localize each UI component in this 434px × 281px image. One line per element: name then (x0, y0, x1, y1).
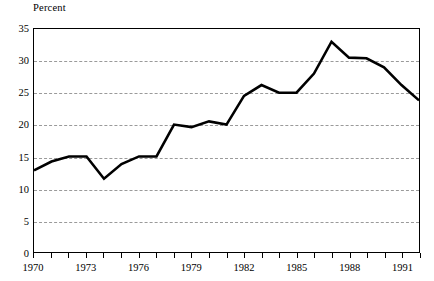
y-tick-label-15: 15 (3, 151, 29, 162)
series-line-percent (34, 29, 419, 252)
x-tick-1991 (402, 253, 403, 258)
x-tick-1970 (33, 253, 34, 258)
y-tick-label-10: 10 (3, 183, 29, 194)
x-tick-1990 (385, 253, 386, 258)
x-tick-1976 (139, 253, 140, 258)
x-axis-ticks (33, 253, 420, 259)
x-tick-1973 (86, 253, 87, 258)
y-axis-title: Percent (33, 2, 66, 14)
x-tick-1992 (420, 253, 421, 258)
x-tick-label-1991: 1991 (392, 261, 413, 274)
x-tick-1989 (367, 253, 368, 258)
x-tick-1981 (227, 253, 228, 258)
y-tick-label-30: 30 (3, 55, 29, 66)
x-tick-1980 (209, 253, 210, 258)
x-tick-label-1973: 1973 (75, 261, 96, 274)
x-tick-label-1970: 1970 (23, 261, 44, 274)
plot-area (33, 28, 420, 253)
x-tick-label-1988: 1988 (339, 261, 360, 274)
x-tick-1977 (156, 253, 157, 258)
x-tick-1985 (297, 253, 298, 258)
x-tick-label-1979: 1979 (181, 261, 202, 274)
y-tick-label-35: 35 (3, 23, 29, 34)
x-tick-1972 (68, 253, 69, 258)
x-tick-1988 (350, 253, 351, 258)
x-tick-1984 (279, 253, 280, 258)
x-tick-1971 (51, 253, 52, 258)
x-axis-tick-labels: 19701973197619791982198519881991 (0, 261, 434, 277)
x-tick-1978 (174, 253, 175, 258)
x-tick-label-1976: 1976 (128, 261, 149, 274)
y-tick-label-5: 5 (3, 215, 29, 226)
x-tick-1979 (191, 253, 192, 258)
x-tick-1982 (244, 253, 245, 258)
percent-line-chart: Percent 35302520151050 19701973197619791… (0, 0, 434, 281)
x-tick-1986 (314, 253, 315, 258)
x-tick-1974 (103, 253, 104, 258)
y-axis-tick-labels: 35302520151050 (0, 28, 29, 253)
x-tick-1975 (121, 253, 122, 258)
x-tick-label-1982: 1982 (234, 261, 255, 274)
x-tick-1983 (262, 253, 263, 258)
y-tick-label-0: 0 (3, 248, 29, 259)
y-tick-label-25: 25 (3, 87, 29, 98)
y-tick-label-20: 20 (3, 119, 29, 130)
x-tick-label-1985: 1985 (286, 261, 307, 274)
x-tick-1987 (332, 253, 333, 258)
